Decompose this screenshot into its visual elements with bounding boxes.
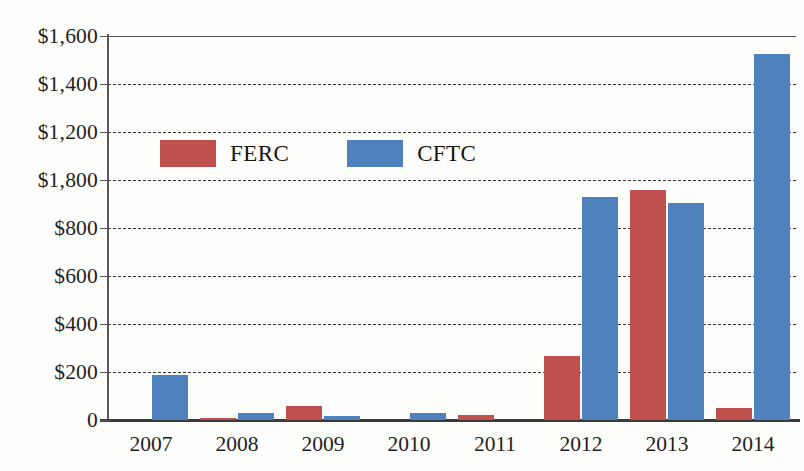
bar-cftc-2014 [754,54,790,420]
y-axis-tick-label: $1,400 [8,72,98,97]
bar-group [194,36,280,420]
y-axis-tick-label: 0 [8,408,98,433]
legend-label-ferc: FERC [230,141,289,167]
bar-cftc-2013 [668,203,704,420]
bar-group [624,36,710,420]
chart-legend: FERC CFTC [160,140,476,167]
x-axis-tick-label: 2011 [474,432,516,457]
legend-entry-cftc: CFTC [347,140,476,167]
bar-cftc-2012 [582,197,618,420]
bar-groups [108,36,796,420]
bar-ferc-2014 [716,408,752,420]
bar-ferc-2011 [458,415,494,420]
x-axis-tick-label: 2013 [646,432,689,457]
legend-entry-ferc: FERC [160,140,289,167]
y-axis-tick-label: $600 [8,264,98,289]
bar-group [452,36,538,420]
bar-group [108,36,194,420]
bar-cftc-2008 [238,413,274,420]
legend-swatch-cftc [347,140,403,167]
bar-cftc-2009 [324,416,360,420]
bar-group [280,36,366,420]
plot-area [108,36,796,420]
legend-swatch-ferc [160,140,216,167]
y-axis-tick-label: $1,600 [8,24,98,49]
y-axis-tick-label: $400 [8,312,98,337]
y-axis-tick-label: $1,800 [8,168,98,193]
bar-ferc-2012 [544,356,580,420]
y-axis-tick [100,420,109,421]
bar-group [710,36,796,420]
x-axis-tick-label: 2014 [732,432,775,457]
y-axis-tick-label: $200 [8,360,98,385]
bar-group [366,36,452,420]
x-axis-tick-label: 2007 [130,432,173,457]
x-axis-tick-label: 2009 [302,432,345,457]
bar-ferc-2009 [286,406,322,420]
bar-ferc-2008 [200,418,236,420]
bar-ferc-2013 [630,190,666,420]
x-axis-tick-label: 2012 [560,432,603,457]
bar-cftc-2010 [410,413,446,420]
y-axis-tick-label: $1,200 [8,120,98,145]
x-axis-tick-label: 2010 [388,432,431,457]
x-axis-tick-label: 2008 [216,432,259,457]
legend-label-cftc: CFTC [417,141,476,167]
bar-chart: 0$200$400$600$800$1,800$1,200$1,400$1,60… [0,0,804,471]
y-axis-tick-label: $800 [8,216,98,241]
bar-cftc-2007 [152,375,188,420]
bar-group [538,36,624,420]
